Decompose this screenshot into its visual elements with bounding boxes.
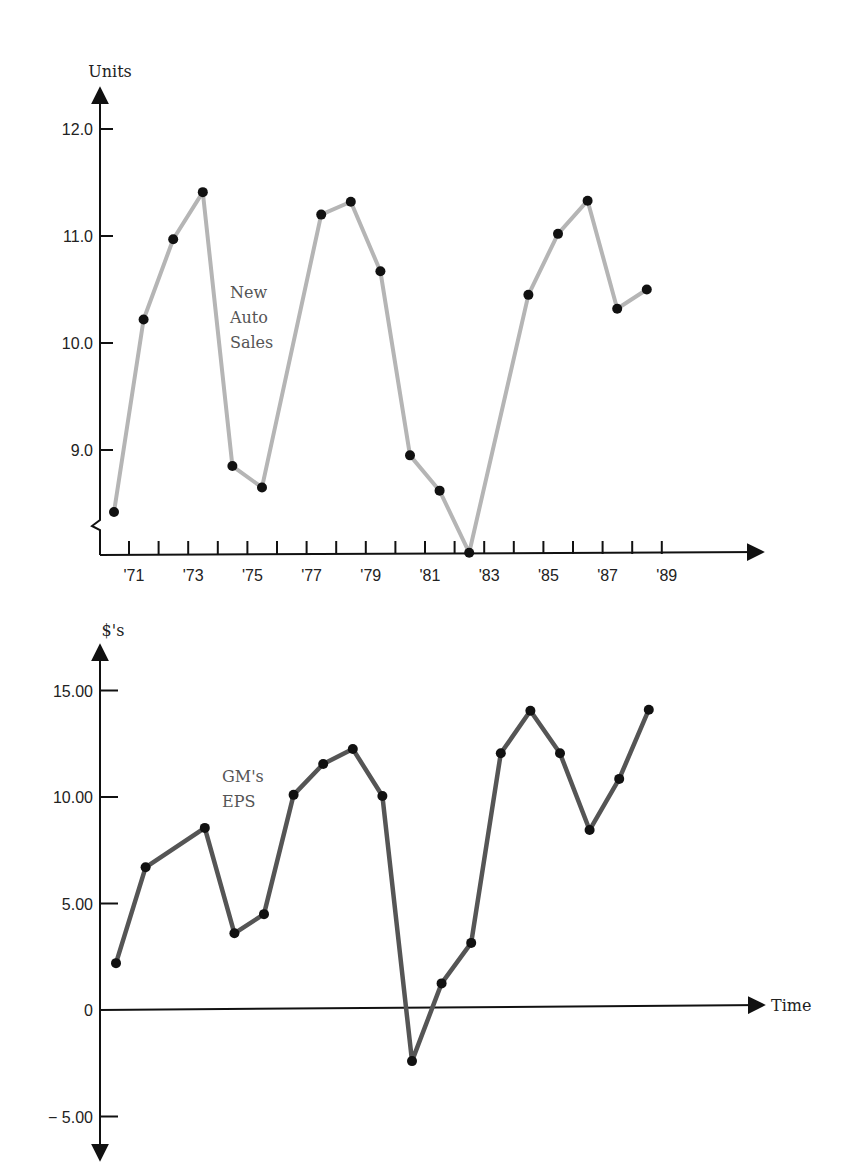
series-line: [114, 192, 647, 553]
data-point: [259, 909, 269, 919]
y-tick-label: 0: [84, 1002, 93, 1019]
data-point: [583, 196, 593, 206]
x-tick-label: '83: [479, 567, 500, 584]
x-axis-label-time: Time: [771, 996, 811, 1015]
x-tick-label: '81: [420, 567, 441, 584]
x-tick-label: '87: [597, 567, 618, 584]
y-ticks: 15.0010.005.000− 5.00: [48, 683, 118, 1126]
data-point: [585, 825, 595, 835]
y-tick-label: 11.0: [63, 228, 93, 245]
data-point: [466, 938, 476, 948]
data-point: [642, 285, 652, 295]
x-ticks: '71'73'75'77'79'81'83'85'87'89: [124, 541, 678, 584]
data-point: [257, 482, 267, 492]
y-tick-label: − 5.00: [48, 1109, 93, 1126]
data-point: [200, 823, 210, 833]
data-point: [168, 234, 178, 244]
data-point: [227, 461, 237, 471]
data-point: [318, 759, 328, 769]
data-point: [377, 791, 387, 801]
data-point: [139, 314, 149, 324]
data-point: [375, 266, 385, 276]
data-point: [437, 978, 447, 988]
annotation-line: GM's: [222, 767, 264, 786]
series-annotation-gm-eps: GM'sEPS: [222, 767, 264, 811]
x-tick-label: '85: [538, 567, 559, 584]
y-tick-label: 15.00: [53, 683, 93, 700]
x-axis: [100, 552, 763, 555]
data-point: [435, 486, 445, 496]
x-tick-label: '73: [183, 567, 204, 584]
annotation-line: Auto: [229, 308, 268, 327]
data-point: [555, 748, 565, 758]
data-point: [348, 744, 358, 754]
annotation-line: New: [230, 283, 267, 302]
data-point: [141, 862, 151, 872]
y-tick-label: 12.0: [62, 121, 93, 138]
data-point: [496, 748, 506, 758]
series-gm-eps: [111, 705, 654, 1066]
chart-canvas: Units 12.011.010.09.0 '71'73'75'77'79'81…: [0, 0, 856, 1170]
data-point: [109, 507, 119, 517]
annotation-line: Sales: [230, 333, 273, 352]
y-axis-label-units: Units: [88, 62, 132, 81]
data-point: [229, 928, 239, 938]
y-axis: [92, 88, 100, 555]
gm-eps-chart: $'s Time 15.0010.005.000− 5.00 GM'sEPS: [48, 621, 811, 1160]
data-point: [464, 548, 474, 558]
data-point: [407, 1056, 417, 1066]
y-tick-label: 10.00: [53, 789, 93, 806]
series-annotation-new-auto-sales: NewAutoSales: [229, 283, 273, 352]
data-point: [523, 290, 533, 300]
y-tick-label: 5.00: [62, 896, 93, 913]
y-tick-label: 10.0: [62, 335, 93, 352]
x-tick-label: '89: [656, 567, 677, 584]
data-point: [612, 304, 622, 314]
data-point: [289, 790, 299, 800]
y-tick-label: 9.0: [71, 442, 93, 459]
data-point: [553, 229, 563, 239]
x-tick-label: '77: [301, 567, 322, 584]
data-point: [111, 958, 121, 968]
x-tick-label: '79: [360, 567, 381, 584]
data-point: [346, 197, 356, 207]
data-point: [614, 774, 624, 784]
annotation-line: EPS: [222, 792, 255, 811]
new-auto-sales-chart: Units 12.011.010.09.0 '71'73'75'77'79'81…: [62, 62, 763, 584]
data-point: [525, 706, 535, 716]
y-axis-label-dollars: $'s: [102, 621, 125, 640]
series-new-auto-sales: [109, 187, 652, 558]
data-point: [198, 187, 208, 197]
data-point: [644, 705, 654, 715]
x-tick-label: '75: [242, 567, 263, 584]
y-ticks: 12.011.010.09.0: [62, 121, 113, 459]
data-point: [405, 450, 415, 460]
data-point: [316, 210, 326, 220]
x-tick-label: '71: [124, 567, 145, 584]
